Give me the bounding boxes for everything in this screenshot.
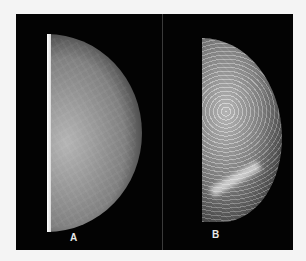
- panel-b: B: [163, 14, 293, 250]
- mammogram-a-texture: [51, 38, 136, 228]
- figure-frame: A B: [16, 14, 293, 250]
- panel-b-label: B: [212, 229, 219, 240]
- mammogram-a-chest-wall: [47, 34, 51, 232]
- panel-a-label: A: [70, 232, 77, 243]
- panel-a: A: [16, 14, 162, 250]
